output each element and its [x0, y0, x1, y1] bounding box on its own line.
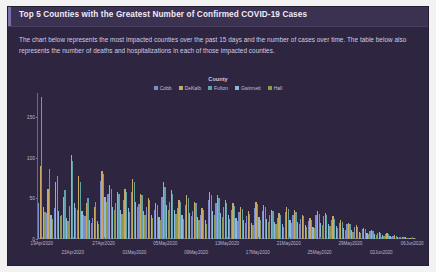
x-tick-label: 27Apr2020: [92, 241, 114, 246]
x-tick-label: 05May2020: [153, 241, 177, 246]
bar-group[interactable]: [207, 93, 215, 239]
card-description: The chart below represents the most impa…: [19, 35, 419, 56]
bar-group[interactable]: [192, 93, 200, 239]
legend-item-dekalb[interactable]: DeKalb: [179, 85, 201, 91]
y-tick-mark: [36, 117, 38, 118]
bar-group[interactable]: [377, 93, 385, 239]
bar-group[interactable]: [77, 93, 85, 239]
legend-swatch-icon: [268, 86, 272, 90]
legend-item-label: Hall: [274, 85, 283, 91]
chart-legend: CobbDeKalbFultonGwinnettHall: [8, 85, 428, 91]
bar-group[interactable]: [38, 93, 46, 239]
bar-group[interactable]: [254, 93, 262, 239]
bar-group[interactable]: [123, 93, 131, 239]
bar-group[interactable]: [369, 93, 377, 239]
bar-group[interactable]: [130, 93, 138, 239]
bar-group[interactable]: [277, 93, 285, 239]
bar-group[interactable]: [46, 93, 54, 239]
bar-group[interactable]: [215, 93, 223, 239]
bar-group[interactable]: [231, 93, 239, 239]
x-tick-label: 09May2020: [184, 250, 208, 255]
title-accent-bar: [8, 7, 11, 26]
bar-group[interactable]: [354, 93, 362, 239]
x-tick-label: 13May2020: [215, 241, 239, 246]
covid-cases-card: Top 5 Counties with the Greatest Number …: [8, 7, 428, 265]
bar-group[interactable]: [53, 93, 61, 239]
bar-group[interactable]: [400, 93, 408, 239]
bar-group[interactable]: [385, 93, 393, 239]
x-tick-label: 06Jun2020: [401, 241, 424, 246]
bar-group[interactable]: [338, 93, 346, 239]
x-tick-mark: [73, 237, 74, 239]
bar-group[interactable]: [92, 93, 100, 239]
x-tick-label: 02Jun2020: [370, 250, 393, 255]
x-axis-labels: 19Apr202023Apr202027Apr202001May202005Ma…: [38, 239, 416, 261]
bar-group[interactable]: [154, 93, 162, 239]
x-tick-mark: [320, 237, 321, 239]
x-tick-mark: [350, 237, 351, 239]
bar-group[interactable]: [107, 93, 115, 239]
legend-swatch-icon: [208, 86, 212, 90]
bar-group[interactable]: [200, 93, 208, 239]
x-tick-mark: [258, 237, 259, 239]
legend-item-fulton[interactable]: Fulton: [208, 85, 228, 91]
y-tick-label: 50: [29, 195, 35, 201]
bar-group[interactable]: [331, 93, 339, 239]
x-tick-label: 01May2020: [122, 250, 146, 255]
y-tick-mark: [36, 198, 38, 199]
x-tick-label: 21May2020: [277, 241, 301, 246]
bar-group[interactable]: [177, 93, 185, 239]
x-tick-mark: [412, 237, 413, 239]
bar-group[interactable]: [69, 93, 77, 239]
bar-group[interactable]: [146, 93, 154, 239]
bar-group[interactable]: [184, 93, 192, 239]
legend-item-label: Fulton: [214, 85, 228, 91]
legend-swatch-icon: [179, 86, 183, 90]
bar-group[interactable]: [308, 93, 316, 239]
x-tick-mark: [165, 237, 166, 239]
bar-group[interactable]: [362, 93, 370, 239]
bar-group[interactable]: [84, 93, 92, 239]
legend-item-gwinnett[interactable]: Gwinnett: [235, 85, 261, 91]
x-tick-label: 29May2020: [338, 241, 362, 246]
bar-group[interactable]: [315, 93, 323, 239]
x-tick-label: 17May2020: [246, 250, 270, 255]
x-tick-label: 25May2020: [308, 250, 332, 255]
bar-group[interactable]: [392, 93, 400, 239]
bar-group[interactable]: [261, 93, 269, 239]
bar-group[interactable]: [100, 93, 108, 239]
legend-item-label: DeKalb: [185, 85, 201, 91]
legend-item-cobb[interactable]: Cobb: [154, 85, 172, 91]
bar-group[interactable]: [138, 93, 146, 239]
bar-group[interactable]: [61, 93, 69, 239]
bar-groups: [38, 93, 416, 239]
bar-group[interactable]: [292, 93, 300, 239]
legend-item-label: Gwinnett: [241, 85, 261, 91]
bar-group[interactable]: [323, 93, 331, 239]
y-tick-mark: [36, 158, 38, 159]
chart-plot-area: 050100150: [38, 93, 416, 239]
bar-group[interactable]: [408, 93, 416, 239]
legend-item-label: Cobb: [160, 85, 172, 91]
bar-group[interactable]: [269, 93, 277, 239]
legend-swatch-icon: [154, 86, 158, 90]
x-tick-mark: [134, 237, 135, 239]
legend-item-hall[interactable]: Hall: [268, 85, 283, 91]
bar-group[interactable]: [223, 93, 231, 239]
card-titlebar: Top 5 Counties with the Greatest Number …: [8, 7, 428, 27]
legend-swatch-icon: [235, 86, 239, 90]
bar-group[interactable]: [285, 93, 293, 239]
bar-group[interactable]: [246, 93, 254, 239]
bar-group[interactable]: [161, 93, 169, 239]
x-tick-label: 19Apr2020: [31, 241, 53, 246]
y-tick-label: 100: [27, 155, 35, 161]
x-tick-mark: [196, 237, 197, 239]
bar-group[interactable]: [300, 93, 308, 239]
bar-group[interactable]: [238, 93, 246, 239]
page-title: Top 5 Counties with the Greatest Number …: [19, 10, 307, 19]
bar-group[interactable]: [169, 93, 177, 239]
x-tick-mark: [227, 237, 228, 239]
bar-group[interactable]: [346, 93, 354, 239]
legend-title: County: [8, 76, 428, 82]
bar-group[interactable]: [115, 93, 123, 239]
